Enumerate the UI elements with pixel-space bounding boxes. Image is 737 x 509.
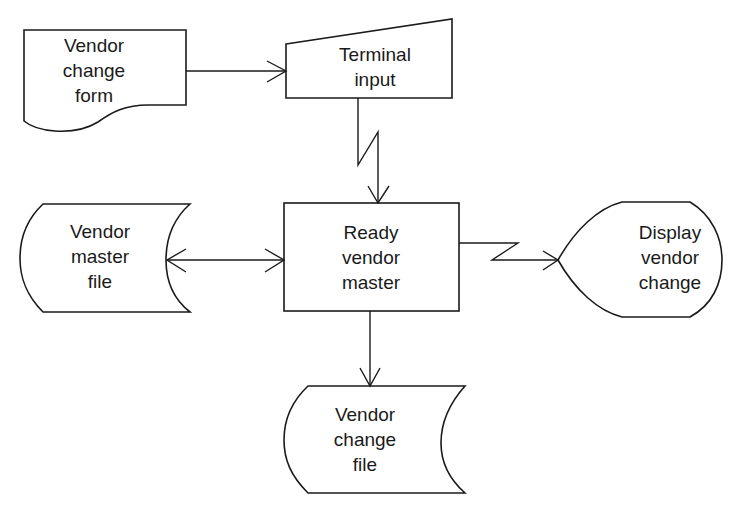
arrow-form-to-terminal [186, 61, 286, 82]
label-vendor-master-file: Vendor master file [30, 219, 170, 294]
label-ready-vendor-master: Ready vendor master [296, 220, 446, 295]
label-vendor-change-form: Vendor change form [24, 33, 164, 108]
comm-link-terminal-to-process [358, 98, 389, 203]
label-display-vendor-change: Display vendor change [610, 220, 730, 295]
label-vendor-change-file: Vendor change file [290, 402, 440, 477]
label-terminal-input: Terminal input [300, 42, 450, 92]
comm-link-process-to-display [459, 243, 558, 270]
arrow-process-to-change-file [360, 311, 380, 386]
bidirectional-arrow-master-file-process [167, 249, 284, 272]
